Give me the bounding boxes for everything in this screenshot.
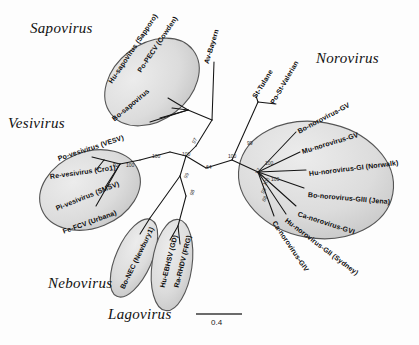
- bootstrap-value: 100: [152, 153, 160, 159]
- scale-bar-label: 0.4: [211, 318, 222, 327]
- phylogenetic-tree-figure: Sapovirus Vesivirus Norovirus Nebovirus …: [0, 0, 419, 345]
- genus-label-sapovirus: Sapovirus: [30, 20, 93, 37]
- bootstrap-value: 100: [182, 151, 190, 157]
- bootstrap-value: 99: [247, 140, 253, 146]
- cluster-ellipse-sapovirus: [88, 20, 217, 144]
- cluster-ellipse-norovirus: [229, 109, 403, 250]
- bootstrap-value: 100: [265, 160, 273, 166]
- genus-label-lagovirus: Lagovirus: [108, 306, 172, 323]
- bootstrap-value: 100: [228, 153, 236, 159]
- genus-label-vesivirus: Vesivirus: [8, 115, 65, 132]
- bootstrap-value: 92: [113, 162, 119, 168]
- bootstrap-value: 64: [206, 164, 212, 170]
- genus-label-nebovirus: Nebovirus: [48, 275, 112, 292]
- genus-label-norovirus: Norovirus: [316, 50, 379, 67]
- bootstrap-value: 100: [271, 176, 279, 182]
- bootstrap-value: 100: [126, 162, 134, 168]
